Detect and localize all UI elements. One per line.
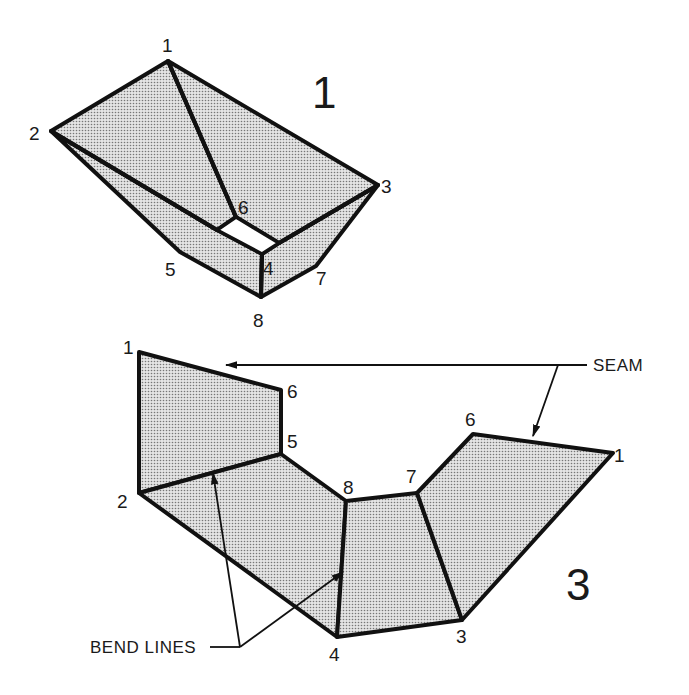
vertex-label-4: 4 (263, 258, 274, 279)
vertex-label-5: 5 (287, 431, 298, 452)
vertex-label-3: 3 (456, 626, 467, 647)
seam-arrow-right (533, 365, 558, 436)
vertex-label-7: 7 (406, 466, 417, 487)
figure-number-3: 3 (566, 560, 590, 609)
vertex-label-2: 2 (117, 491, 128, 512)
vertex-label-8: 8 (253, 310, 264, 331)
vertex-label-2: 2 (29, 123, 40, 144)
vertex-label-1-left: 1 (123, 337, 134, 358)
vertex-label-1-right: 1 (614, 445, 625, 466)
edge-4-8 (261, 254, 262, 297)
vertex-label-6-left: 6 (287, 381, 298, 402)
vertex-label-6: 6 (238, 197, 249, 218)
vertex-label-7: 7 (316, 268, 327, 289)
bend-lines-label: BEND LINES (90, 638, 196, 657)
diagram-canvas: 1 2 3 4 5 6 7 8 1 1 6 5 2 8 7 6 1 4 3 3 (0, 0, 689, 695)
vertex-label-6-right: 6 (465, 409, 476, 430)
vertex-label-5: 5 (165, 259, 176, 280)
vertex-label-8: 8 (343, 477, 354, 498)
vertex-label-3: 3 (381, 176, 392, 197)
vertex-label-1: 1 (162, 35, 173, 56)
seam-label: SEAM (593, 356, 643, 375)
figure-3-unfolded-pattern: 1 6 5 2 8 7 6 1 4 3 3 SEAM BEND LINES (90, 337, 643, 665)
vertex-label-4: 4 (329, 644, 340, 665)
figure-1-folded-shape: 1 2 3 4 5 6 7 8 1 (29, 35, 392, 331)
figure-number-1: 1 (312, 68, 336, 117)
